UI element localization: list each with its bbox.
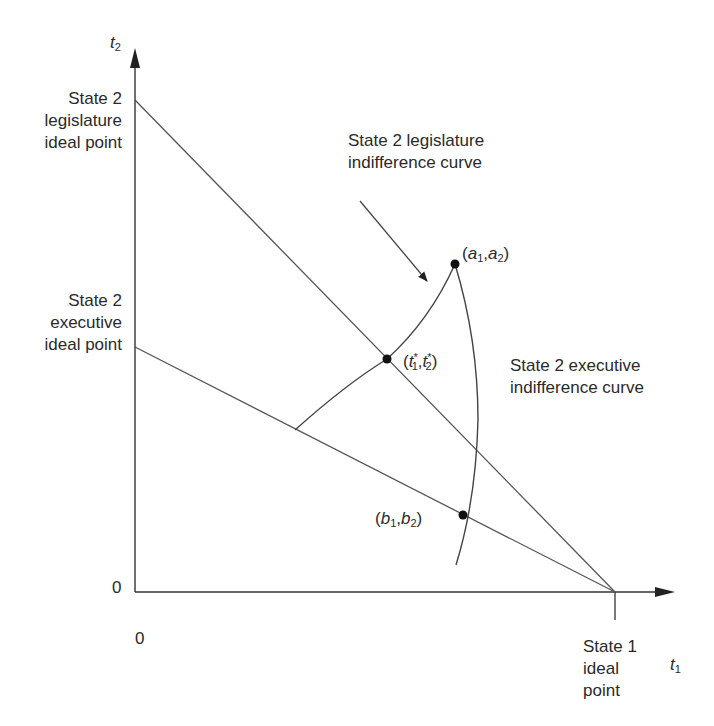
point-a-marker: [451, 260, 460, 269]
executive-ideal-point-label: State 2 executive ideal point: [44, 290, 122, 356]
state1-ideal-point-label: State 1 ideal point: [583, 636, 637, 702]
point-b-marker: [459, 511, 468, 520]
legislature-curve-annotation: State 2 legislature indifference curve: [348, 130, 484, 174]
point-t-star-label: (t*1,t*2): [403, 346, 437, 377]
x-axis-label: t1: [670, 654, 681, 680]
legislature-ideal-point-label: State 2 legislature ideal point: [44, 88, 122, 154]
executive-curve-annotation: State 2 executive indifference curve: [510, 355, 644, 399]
y-axis-arrowhead-icon: [130, 48, 140, 68]
y-axis: [130, 48, 140, 592]
point-b-label: (b1,b2): [375, 508, 422, 534]
point-t-star-marker: [383, 355, 392, 364]
x-axis: [135, 587, 675, 597]
y-origin-label: 0: [112, 577, 121, 599]
y-axis-label: t2: [110, 32, 121, 58]
x-axis-arrowhead-icon: [655, 587, 675, 597]
point-a-label: (a1,a2): [462, 243, 509, 269]
legislature-curve-pointer-arrow: [360, 201, 427, 281]
x-origin-label: 0: [135, 628, 144, 650]
